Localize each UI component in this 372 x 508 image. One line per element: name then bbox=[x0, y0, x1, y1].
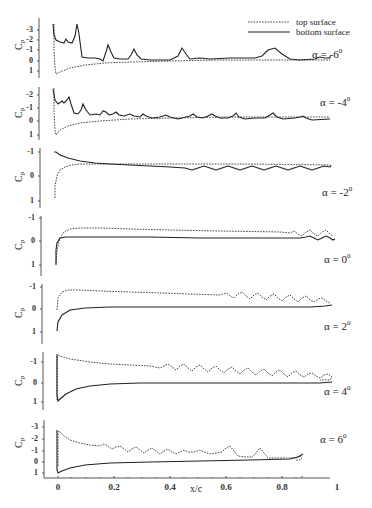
y-tick-label: -2 bbox=[26, 35, 33, 44]
y-tick-label: 0 bbox=[30, 171, 34, 180]
x-tick-label: 0.6 bbox=[220, 482, 232, 492]
panel-alpha-neg4: -2 -1 0 1 Cp α = -40 bbox=[13, 87, 351, 140]
bottom-surface-curve bbox=[54, 152, 331, 170]
legend-bottom-surface-label: bottom surface bbox=[296, 27, 350, 37]
alpha-label: α = -40 bbox=[320, 95, 351, 108]
y-tick-label: 0 bbox=[33, 378, 37, 387]
y-tick-label: 1 bbox=[29, 130, 33, 139]
panel-alpha-neg6: -3 -2 -1 0 1 Cp α = -60 bbox=[13, 18, 343, 78]
x-tick-label: 0.2 bbox=[108, 482, 120, 492]
y-tick-label: -1 bbox=[26, 103, 33, 112]
y-tick-label: 1 bbox=[30, 196, 34, 205]
bottom-surface-curve bbox=[56, 236, 335, 265]
cp-distribution-chart: top surface bottom surface -3 -2 -1 0 1 … bbox=[0, 0, 372, 508]
y-axis-label: Cp bbox=[13, 239, 26, 250]
alpha-label: α = 00 bbox=[324, 252, 351, 265]
y-tick-label: -1 bbox=[26, 45, 33, 54]
x-axis: 0 0.2 0.4 0.6 0.8 1 x/c bbox=[44, 476, 340, 494]
top-surface-curve bbox=[54, 88, 330, 135]
y-tick-label: 1 bbox=[34, 468, 38, 477]
top-surface-curve bbox=[58, 431, 302, 466]
y-axis-label: Cp bbox=[13, 171, 26, 182]
x-tick-label: 0.8 bbox=[276, 482, 288, 492]
panel-alpha-6: -3 -2 -1 0 1 Cp α = 60 bbox=[13, 420, 347, 478]
y-axis-label: Cp bbox=[13, 307, 26, 318]
panel-alpha-neg2: -1 0 1 Cp α = -20 bbox=[13, 147, 353, 208]
y-tick-label: -3 bbox=[26, 25, 33, 34]
x-tick-label: 1 bbox=[335, 482, 340, 492]
y-tick-label: 0 bbox=[34, 457, 38, 466]
y-tick-label: -1 bbox=[28, 213, 35, 222]
legend: top surface bottom surface bbox=[248, 17, 350, 37]
y-tick-label: -2 bbox=[31, 434, 38, 443]
y-tick-label: -3 bbox=[31, 422, 38, 431]
y-tick-label: -2 bbox=[26, 90, 33, 99]
panel-alpha-4: -1 0 1 Cp α = 40 bbox=[13, 352, 351, 410]
panel-alpha-0: -1 0 1 Cp α = 00 bbox=[13, 213, 351, 276]
x-axis-label: x/c bbox=[190, 483, 203, 494]
alpha-label: α = 40 bbox=[324, 384, 351, 397]
alpha-label: α = -20 bbox=[322, 185, 353, 198]
y-tick-label: 0 bbox=[29, 56, 33, 65]
alpha-label: α = -60 bbox=[312, 47, 343, 60]
y-tick-label: -1 bbox=[31, 446, 38, 455]
y-tick-label: 0 bbox=[32, 304, 36, 313]
bottom-surface-curve bbox=[53, 24, 330, 61]
y-tick-label: 1 bbox=[32, 327, 36, 336]
x-tick-label: 0 bbox=[56, 482, 61, 492]
y-tick-label: 1 bbox=[29, 66, 33, 75]
bottom-surface-curve bbox=[53, 89, 330, 120]
bottom-surface-curve bbox=[57, 355, 332, 401]
y-axis-label: Cp bbox=[13, 107, 26, 118]
y-axis-label: Cp bbox=[13, 437, 26, 448]
bottom-surface-curve bbox=[57, 430, 303, 473]
y-tick-label: -1 bbox=[30, 357, 37, 366]
legend-top-surface-label: top surface bbox=[296, 17, 336, 27]
y-tick-label: 1 bbox=[31, 260, 35, 269]
alpha-label: α = 60 bbox=[320, 432, 347, 445]
y-axis-label: Cp bbox=[13, 39, 26, 50]
y-tick-label: -1 bbox=[27, 147, 34, 156]
y-axis-label: Cp bbox=[13, 375, 26, 386]
y-tick-label: 1 bbox=[33, 397, 37, 406]
top-surface-curve bbox=[55, 164, 330, 198]
x-tick-label: 0.4 bbox=[164, 482, 176, 492]
bottom-surface-curve bbox=[57, 305, 332, 331]
y-tick-label: 0 bbox=[31, 236, 35, 245]
top-surface-curve bbox=[57, 354, 332, 400]
y-tick-label: -1 bbox=[29, 282, 36, 291]
top-surface-curve bbox=[56, 228, 333, 263]
alpha-label: α = 20 bbox=[324, 319, 351, 332]
panel-alpha-2: -1 0 1 Cp α = 20 bbox=[13, 282, 351, 344]
y-tick-label: 0 bbox=[29, 116, 33, 125]
